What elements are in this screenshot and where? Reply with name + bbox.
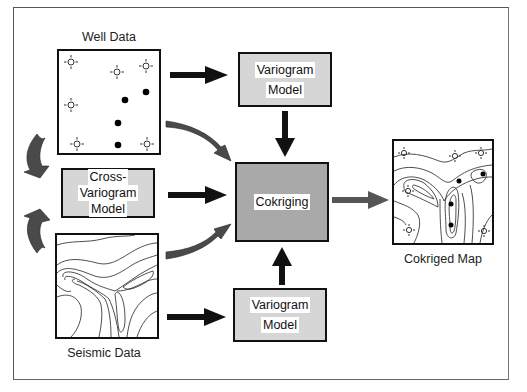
cokriging-box: Cokriging — [235, 162, 329, 242]
cokriged-map-caption: Cokriged Map — [392, 252, 494, 266]
sampled-well-dots — [115, 89, 150, 149]
unsampled-well-icons — [64, 55, 154, 151]
seismic-data-caption: Seismic Data — [52, 346, 156, 360]
cross-variogram-model: Cross- Variogram Model — [61, 168, 155, 218]
variogram-model-top-line1: Variogram — [255, 62, 316, 78]
cokriged-map — [392, 139, 494, 245]
cross-variogram-line3: Model — [89, 201, 127, 217]
variogram-model-top-line2: Model — [266, 82, 304, 98]
cokriging-label: Cokriging — [254, 194, 311, 210]
well-data-map — [57, 49, 161, 155]
well-data-caption: Well Data — [57, 30, 161, 44]
variogram-model-bottom-line2: Model — [261, 317, 299, 333]
unsampled-well-icons — [398, 147, 490, 237]
cross-variogram-line1: Cross- — [88, 169, 129, 185]
variogram-model-bottom: Variogram Model — [233, 288, 327, 342]
seismic-data-map — [55, 233, 159, 339]
cross-variogram-line2: Variogram — [78, 185, 139, 201]
variogram-model-top: Variogram Model — [238, 52, 332, 107]
variogram-model-bottom-line1: Variogram — [250, 297, 311, 313]
